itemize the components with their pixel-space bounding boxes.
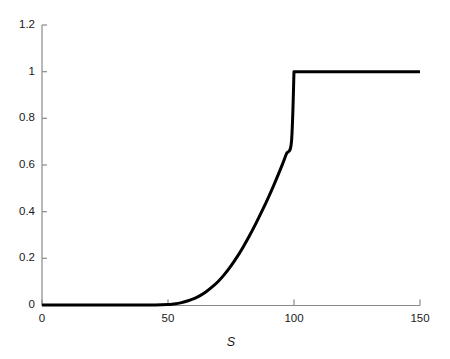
x-tick-label: 0 [39,313,45,325]
y-tick-marks [42,25,47,305]
y-tick-label: 0.2 [2,253,35,265]
data-series-line [42,72,420,305]
x-axis-title: S [227,336,235,349]
plot-canvas [0,0,450,359]
chart-figure: 1.2 1 0.8 0.6 0.4 0.2 0 0 50 100 150 S [0,0,450,359]
y-tick-label: 0 [2,299,35,311]
y-tick-label: 0.8 [2,113,35,125]
x-tick-label: 50 [162,313,175,325]
y-tick-label: 1 [2,66,35,78]
y-tick-label: 0.4 [2,206,35,218]
y-tick-label: 0.6 [2,159,35,171]
x-tick-label: 100 [284,313,303,325]
x-tick-label: 150 [410,313,429,325]
y-tick-label: 1.2 [2,19,35,31]
